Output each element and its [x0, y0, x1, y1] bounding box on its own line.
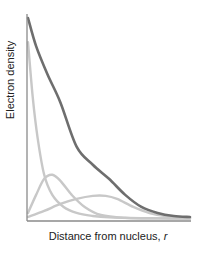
curves-group — [28, 18, 190, 219]
y-axis-label: Electron density — [4, 41, 16, 119]
x-axis-label: Distance from nucleus, r — [49, 230, 168, 242]
total-electron-density-curve — [28, 18, 190, 217]
x-axis-label-text: Distance from nucleus, — [49, 230, 164, 242]
chart-plot — [0, 0, 201, 253]
inner-shell-component-curve — [28, 42, 190, 218]
x-axis-variable: r — [164, 230, 168, 242]
